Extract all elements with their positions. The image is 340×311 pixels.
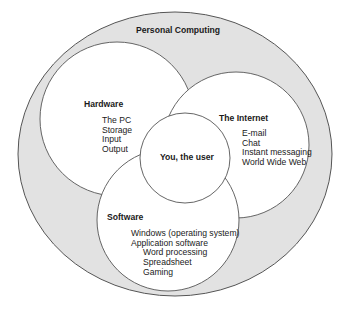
software-subitem: Gaming [131,268,239,278]
internet-title: The Internet [219,114,268,124]
software-list: Windows (operating system) Application s… [131,229,239,278]
personal-computing-title: Personal Computing [136,26,220,36]
hardware-list: The PC Storage Input Output [102,116,132,155]
software-title: Software [107,213,143,223]
internet-list: E-mail Chat Instant messaging World Wide… [242,129,312,168]
hardware-item: Output [102,145,132,155]
internet-item: World Wide Web [242,158,312,168]
user-title: You, the user [160,153,214,163]
hardware-title: Hardware [84,100,123,110]
